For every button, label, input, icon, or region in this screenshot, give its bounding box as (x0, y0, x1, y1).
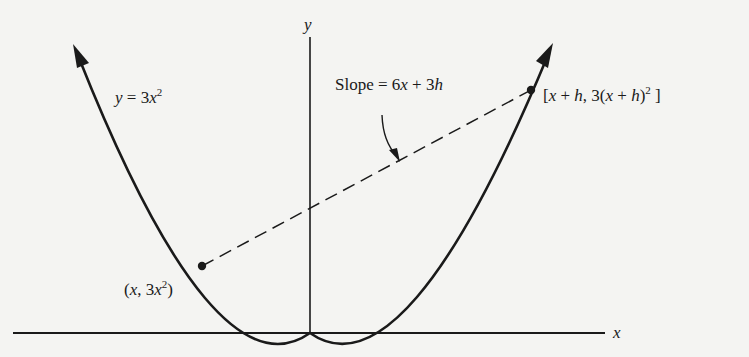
lower-point-label: (x, 3x2) (124, 281, 173, 298)
slope-label: Slope = 6x + 3h (335, 76, 443, 93)
diagram-canvas (0, 0, 749, 357)
point-lower (198, 262, 206, 270)
x-axis-label: x (613, 324, 621, 341)
y-axis-label: y (304, 16, 312, 33)
arrowhead-left-icon (73, 44, 89, 68)
secant-line (202, 90, 531, 266)
point-upper (527, 86, 535, 94)
curve-equation-label: y = 3x2 (115, 89, 162, 106)
slope-pointer-arrowhead-icon (389, 148, 400, 162)
arrowhead-right-icon (536, 43, 553, 68)
upper-point-label: [x + h, 3(x + h)2 ] (543, 87, 661, 104)
